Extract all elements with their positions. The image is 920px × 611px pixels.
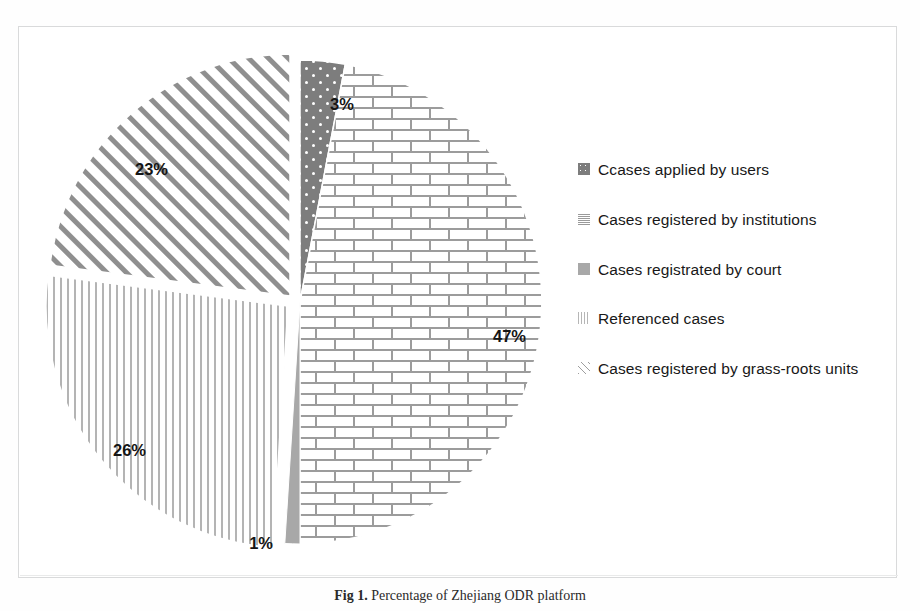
legend-label-referenced: Referenced cases bbox=[598, 309, 725, 329]
legend-label-users: Ccases applied by users bbox=[598, 160, 769, 180]
figure-caption: Fig 1. Percentage of Zhejiang ODR platfo… bbox=[0, 588, 920, 604]
legend-label-grassroots: Cases registered by grass-roots units bbox=[598, 359, 858, 379]
pie-label-institutions: 47% bbox=[493, 327, 526, 345]
pie-slice-institutions bbox=[300, 64, 542, 544]
pie-chart: 3% 47% 1% 26% 23% bbox=[30, 30, 570, 570]
scan-artifact-line bbox=[20, 575, 898, 576]
chart-legend: Ccases applied by users Cases registered… bbox=[578, 160, 898, 379]
pie-label-grassroots: 23% bbox=[135, 160, 168, 178]
legend-item-referenced[interactable]: Referenced cases bbox=[578, 309, 898, 329]
legend-item-grassroots[interactable]: Cases registered by grass-roots units bbox=[578, 359, 898, 379]
legend-item-users[interactable]: Ccases applied by users bbox=[578, 160, 898, 180]
legend-item-institutions[interactable]: Cases registered by institutions bbox=[578, 210, 898, 230]
pie-slice-grassroots bbox=[50, 54, 290, 296]
pie-label-referenced: 26% bbox=[113, 441, 146, 459]
brick-swatch-icon bbox=[578, 213, 590, 225]
pie-slice-referenced bbox=[46, 275, 288, 547]
diagonal-lines-swatch-icon bbox=[578, 362, 590, 374]
legend-item-court[interactable]: Cases registrated by court bbox=[578, 260, 898, 280]
figure-root: 3% 47% 1% 26% 23% Ccases applied by user… bbox=[0, 0, 920, 611]
pie-chart-svg: 3% 47% 1% 26% 23% bbox=[30, 30, 570, 570]
legend-label-court: Cases registrated by court bbox=[598, 260, 782, 280]
legend-label-institutions: Cases registered by institutions bbox=[598, 210, 817, 230]
pie-slice-court bbox=[285, 302, 300, 544]
figure-caption-text: Percentage of Zhejiang ODR platform bbox=[371, 588, 586, 603]
dots-swatch-icon bbox=[578, 163, 590, 175]
solid-swatch-icon bbox=[578, 263, 590, 275]
pie-label-court: 1% bbox=[249, 534, 273, 552]
figure-caption-label: Fig 1. bbox=[334, 588, 367, 603]
vertical-lines-swatch-icon bbox=[578, 312, 590, 324]
pie-label-users: 3% bbox=[330, 95, 354, 113]
